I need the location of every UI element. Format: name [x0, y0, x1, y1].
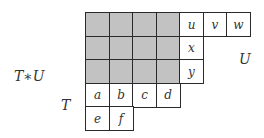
young-tableau-diagram: uvwxyabcdef T∗U T U	[0, 0, 264, 138]
cell-v: v	[203, 12, 228, 37]
shaded-cell	[109, 59, 134, 84]
cell-u: u	[179, 12, 204, 37]
shaded-cell	[109, 36, 134, 61]
shaded-cell	[156, 36, 181, 61]
cell-d: d	[156, 83, 181, 108]
shaded-cell	[85, 59, 110, 84]
shaded-cell	[156, 59, 181, 84]
shaded-cell	[132, 12, 157, 37]
cell-x: x	[179, 36, 204, 61]
cell-y: y	[179, 59, 204, 84]
shaded-cell	[132, 36, 157, 61]
cell-b: b	[109, 83, 134, 108]
cell-a: a	[85, 83, 110, 108]
shaded-cell	[85, 36, 110, 61]
shaded-cell	[132, 59, 157, 84]
shaded-cell	[85, 12, 110, 37]
cell-f: f	[109, 106, 134, 131]
shaded-cell	[156, 12, 181, 37]
label-t-star-u: T∗U	[14, 68, 45, 84]
cell-w: w	[226, 12, 251, 37]
cell-e: e	[85, 106, 110, 131]
shaded-cell	[109, 12, 134, 37]
label-t: T	[61, 97, 70, 113]
cell-c: c	[132, 83, 157, 108]
label-u: U	[239, 51, 251, 67]
